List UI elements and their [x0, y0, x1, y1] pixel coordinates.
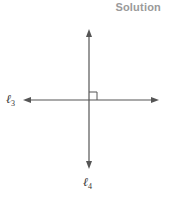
right-angle-marker-icon	[89, 92, 97, 100]
arrowhead-left-icon	[23, 97, 31, 103]
arrowhead-down-icon	[86, 161, 92, 169]
label-l4-subscript: 4	[88, 182, 92, 191]
line-label-l4: ℓ4	[83, 176, 92, 191]
line-l4	[86, 29, 92, 169]
line-label-l3: ℓ3	[6, 93, 15, 108]
arrowhead-up-icon	[86, 29, 92, 37]
line-l3	[23, 97, 159, 103]
label-l3-subscript: 3	[11, 99, 15, 108]
arrowhead-right-icon	[151, 97, 159, 103]
perpendicular-lines-diagram	[0, 0, 170, 197]
